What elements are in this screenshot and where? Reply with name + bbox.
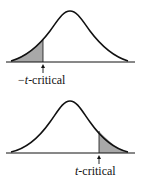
right-tail-panel [6,101,135,164]
left-tail-panel [6,11,135,73]
right-tail-shade [99,131,128,153]
bell-curve [11,101,128,152]
t-critical-label: t-critical [75,164,116,179]
t-distribution-diagram [0,0,143,183]
neg-t-critical-label: −t-critical [18,73,65,88]
label-suffix: -critical [28,73,65,87]
minus-sign: − [18,73,25,87]
label-suffix: -critical [78,164,115,178]
